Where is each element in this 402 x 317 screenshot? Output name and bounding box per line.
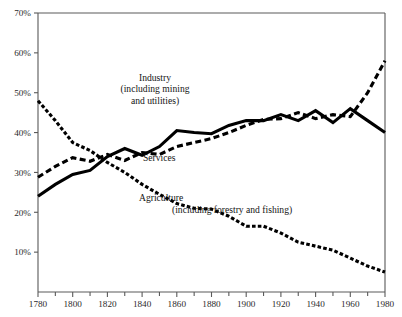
x-tick-label: 1940 xyxy=(306,299,325,309)
x-tick-label: 1840 xyxy=(133,299,152,309)
agriculture-sub-label: (including forestry and fishing) xyxy=(172,204,292,215)
industry-label: Industry (including mining and utilities… xyxy=(92,72,218,106)
x-tick-label: 1880 xyxy=(202,299,221,309)
y-tick-label: 50% xyxy=(14,88,31,98)
x-tick-label: 1820 xyxy=(98,299,117,309)
x-tick-label: 1960 xyxy=(341,299,360,309)
x-tick-label: 1900 xyxy=(237,299,256,309)
y-tick-label: 60% xyxy=(14,48,31,58)
x-tick-label: 1980 xyxy=(376,299,395,309)
x-axis-ticks: 1780180018201840186018801900192019401960… xyxy=(29,292,395,309)
series-line xyxy=(38,109,385,197)
x-tick-label: 1920 xyxy=(272,299,291,309)
y-tick-label: 40% xyxy=(14,128,31,138)
y-tick-label: 10% xyxy=(14,247,31,257)
axis-frame xyxy=(38,13,385,292)
y-tick-label: 70% xyxy=(14,8,31,18)
x-tick-label: 1780 xyxy=(29,299,48,309)
chart-axes xyxy=(38,13,385,292)
y-tick-label: 30% xyxy=(14,168,31,178)
services-label: Services xyxy=(143,152,176,163)
agriculture-label: Agriculture xyxy=(139,192,183,203)
x-tick-label: 1800 xyxy=(64,299,83,309)
line-chart: 70%60%50%40%30%20%10% 178018001820184018… xyxy=(0,0,402,317)
chart-figure: 70%60%50%40%30%20%10% 178018001820184018… xyxy=(0,0,402,317)
y-tick-label: 20% xyxy=(14,208,31,218)
y-axis-ticks: 70%60%50%40%30%20%10% xyxy=(14,8,38,257)
x-tick-label: 1860 xyxy=(168,299,187,309)
series-line xyxy=(38,101,385,272)
